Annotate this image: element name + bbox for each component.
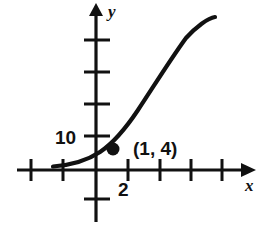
point-coordinate-label: (1, 4) — [133, 138, 177, 159]
graph-figure: y x 10 2 (1, 4) — [0, 0, 264, 226]
x-axis-arrowhead — [241, 163, 256, 177]
x-tick-label-2: 2 — [118, 179, 129, 200]
y-axis — [89, 3, 103, 222]
x-axis-label: x — [244, 176, 254, 195]
coordinate-plane-svg: y x 10 2 (1, 4) — [0, 0, 264, 226]
y-tick-label-10: 10 — [55, 127, 76, 148]
y-axis-arrowhead — [89, 3, 103, 16]
point-marker — [107, 143, 120, 156]
y-axis-label: y — [106, 2, 116, 21]
